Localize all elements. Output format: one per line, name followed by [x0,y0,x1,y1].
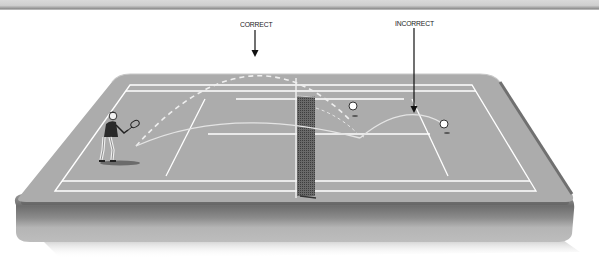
label-incorrect: INCORRECT [395,19,434,28]
arrow-correct [252,30,259,57]
tennis-court-diagram [0,0,599,262]
net [296,78,316,198]
label-correct: CORRECT [240,20,272,29]
